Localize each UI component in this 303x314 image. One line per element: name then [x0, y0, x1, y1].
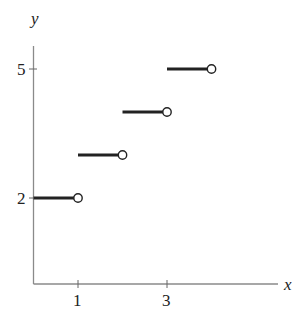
x-axis-label: x [283, 275, 292, 294]
open-endpoint-marker [118, 151, 126, 159]
step-segment-4 [167, 65, 216, 73]
y-axis-label: y [29, 9, 39, 28]
y-tick-label-5: 5 [17, 60, 26, 79]
step-segment-1 [34, 194, 83, 202]
open-endpoint-marker [207, 65, 215, 73]
step-segment-2 [78, 151, 127, 159]
step-segment-3 [123, 108, 172, 116]
x-tick-label-3: 3 [162, 291, 171, 310]
y-tick-label-2: 2 [17, 189, 26, 208]
step-function-chart: y x 1 3 5 2 [0, 0, 303, 314]
x-tick-label-1: 1 [73, 291, 82, 310]
open-endpoint-marker [163, 108, 171, 116]
open-endpoint-marker [74, 194, 82, 202]
